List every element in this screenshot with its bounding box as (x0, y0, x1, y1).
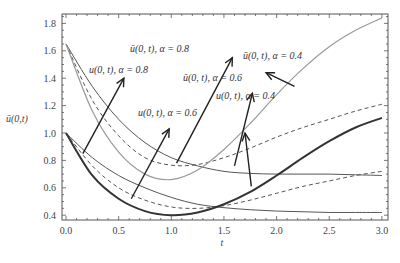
series-line-1 (66, 44, 382, 166)
series-line-5 (66, 118, 382, 215)
annotation-u-alpha-0.4: u(0, t), α = 0.4 (216, 90, 275, 102)
annotation-ubar-alpha-0.4: ū(0, t), α = 0.4 (243, 50, 302, 62)
axis-ticks (62, 14, 388, 220)
annotation-arrow (234, 93, 252, 166)
x-tick-label: 2.5 (323, 225, 336, 236)
y-tick-label: 1.8 (44, 18, 57, 29)
axis-tick-labels: 0.00.51.01.52.02.53.00.40.60.81.01.21.41… (44, 18, 389, 236)
plot-frame (62, 14, 388, 220)
y-tick-label: 0.4 (44, 210, 57, 221)
y-tick-label: 1.6 (44, 45, 57, 56)
x-tick-label: 0.5 (112, 225, 125, 236)
data-curves (66, 18, 382, 215)
x-tick-label: 0.0 (60, 225, 73, 236)
annotation-arrow (266, 73, 294, 87)
annotation-arrow (245, 133, 251, 186)
annotation-ubar-alpha-0.8: ū(0, t), α = 0.8 (130, 43, 189, 55)
annotation-arrow (83, 78, 124, 153)
y-tick-label: 0.8 (44, 155, 57, 166)
plot-border (62, 14, 388, 220)
x-tick-label: 2.0 (270, 225, 283, 236)
y-tick-label: 1.0 (44, 128, 57, 139)
annotation-ubar-alpha-0.6: ū(0, t), α = 0.6 (183, 72, 242, 84)
x-tick-label: 3.0 (376, 225, 389, 236)
x-tick-label: 1.5 (218, 225, 231, 236)
annotation-u-alpha-0.8: u(0, t), α = 0.8 (89, 64, 148, 76)
annotation-arrow (131, 129, 169, 199)
x-axis-title: t (221, 237, 224, 248)
series-line-4 (66, 133, 382, 208)
y-axis-title: ū(0,t) (6, 113, 29, 125)
y-tick-label: 1.2 (44, 100, 57, 111)
annotation-u-alpha-0.6: u(0, t), α = 0.6 (138, 107, 197, 119)
x-tick-label: 1.0 (165, 225, 178, 236)
y-tick-label: 1.4 (44, 73, 57, 84)
y-tick-label: 0.6 (44, 182, 57, 193)
chart: 0.00.51.01.52.02.53.00.40.60.81.01.21.41… (0, 0, 400, 263)
